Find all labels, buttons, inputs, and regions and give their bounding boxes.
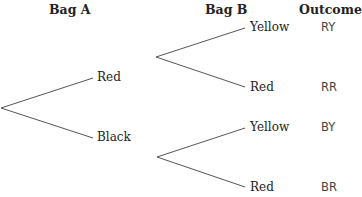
branch-red-yellow [156, 28, 245, 57]
outcome-rr: RR [321, 80, 337, 94]
branch-root-red [1, 78, 93, 108]
branch-black-yellow [157, 128, 245, 157]
outcome-ry: RY [321, 20, 335, 34]
outcome-by: BY [321, 120, 335, 134]
header-outcome: Outcome [299, 3, 362, 17]
node-bag-b-yellow-2: Yellow [250, 120, 289, 134]
outcome-br: BR [321, 180, 337, 194]
branch-red-red [156, 57, 245, 87]
node-bag-b-red-2: Red [250, 180, 274, 194]
node-bag-b-red-1: Red [250, 80, 274, 94]
branch-black-red [157, 157, 245, 187]
node-bag-a-red: Red [97, 70, 121, 84]
node-bag-b-yellow-1: Yellow [250, 20, 289, 34]
branch-root-black [1, 108, 93, 138]
header-bag-b: Bag B [205, 3, 247, 17]
header-bag-a: Bag A [49, 3, 90, 17]
node-bag-a-black: Black [97, 130, 131, 144]
